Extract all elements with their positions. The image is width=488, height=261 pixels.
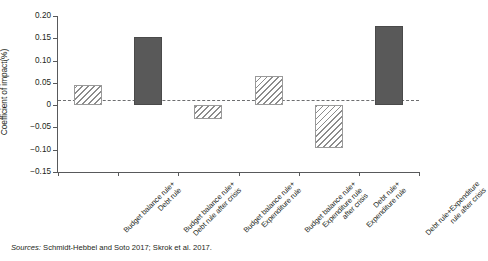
x-category-label-line: Debt rule: [128, 186, 183, 241]
y-tick-label: 0.20: [0, 12, 51, 20]
x-category-label: Budget balance rule+Debt rule: [122, 180, 183, 241]
x-category-label: Debt rule+Expenditure rule: [358, 180, 408, 230]
x-category-label-line: Budget balance rule+: [243, 180, 298, 235]
x-category-label-line: after crisis: [315, 192, 370, 247]
bar: [375, 26, 403, 105]
x-category-label-line: Budget balance rule+: [303, 180, 358, 235]
x-category-label-line: Debt rule after crisis: [189, 186, 244, 241]
y-tick-label: 0: [0, 101, 51, 109]
bar: [74, 85, 102, 106]
x-category-label: Debt rule+Expenditurerule after crisis: [424, 180, 488, 244]
x-category-label-line: Budget balance rule+: [122, 180, 177, 235]
source-label: Sources:: [11, 243, 41, 252]
bar-series: [58, 16, 419, 172]
bar: [315, 105, 343, 148]
y-tick-label: −0.05: [0, 123, 51, 131]
x-tick-mark: [58, 172, 59, 176]
y-tick-label: −0.10: [0, 146, 51, 154]
x-category-label-line: Debt rule+: [358, 180, 402, 224]
y-axis-title: Coefficient of impact(%): [0, 0, 10, 12]
x-category-label-line: Debt rule+Expenditure: [424, 180, 481, 237]
x-tick-mark: [359, 172, 360, 176]
x-category-label-line: Budget balance rule+: [182, 180, 237, 235]
y-tick-label: 0.05: [0, 79, 51, 87]
y-tick-label: 0.10: [0, 57, 51, 65]
bar: [194, 105, 222, 119]
y-tick-label: −0.15: [0, 168, 51, 176]
bar: [134, 37, 162, 105]
x-category-label-line: Expenditure rule: [364, 186, 408, 230]
source-text: Schmidt-Hebbel and Soto 2017; Skrok et a…: [41, 243, 212, 252]
x-tick-mark: [178, 172, 179, 176]
x-category-label-line: Expenditure rule: [249, 186, 304, 241]
x-category-label: Budget balance rule+Expenditure ruleafte…: [303, 180, 370, 247]
x-tick-mark: [118, 172, 119, 176]
y-tick-label: 0.15: [0, 34, 51, 42]
x-tick-mark: [239, 172, 240, 176]
x-category-label-line: rule after crisis: [430, 186, 487, 243]
source-note: Sources: Schmidt-Hebbel and Soto 2017; S…: [11, 243, 212, 252]
x-tick-mark: [419, 172, 420, 176]
x-category-label-line: Expenditure rule: [309, 186, 364, 241]
bar: [255, 76, 283, 105]
x-category-label: Budget balance rule+Expenditure rule: [243, 180, 304, 241]
x-category-label: Budget balance rule+Debt rule after cris…: [182, 180, 243, 241]
x-tick-mark: [299, 172, 300, 176]
